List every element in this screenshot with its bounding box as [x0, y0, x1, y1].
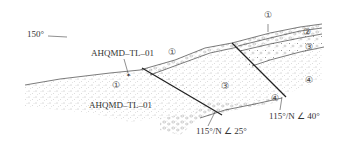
fault-right-leader [280, 97, 282, 110]
fault-left-attitude: 115°/N ∠ 25° [196, 126, 247, 136]
sample-label-top: AHQMD–TL–01 [91, 48, 154, 58]
direction-label: 150° [27, 29, 45, 39]
sample-star-icon: ✶ [126, 71, 131, 78]
layer-label-1-mid: ① [168, 47, 176, 57]
layer-label-3-top: ③ [305, 42, 313, 52]
layer-label-4-center: ④ [271, 93, 279, 103]
sample-label-bottom: AHQMD–TL–01 [89, 100, 152, 110]
layer-label-3-center: ③ [221, 81, 229, 91]
layer-label-2-top: ② [303, 27, 311, 37]
layer-label-4-right: ④ [305, 75, 313, 85]
layer-label-1-top: ① [264, 10, 272, 20]
geological-cross-section: ✶ 150° AHQMD–TL–01 AHQMD–TL–01 ① ② ③ ④ ①… [0, 0, 347, 150]
fault-right-attitude: 115°/N ∠ 40° [269, 111, 320, 121]
direction-arrow [48, 36, 67, 37]
layer-label-1-left: ① [112, 80, 120, 90]
